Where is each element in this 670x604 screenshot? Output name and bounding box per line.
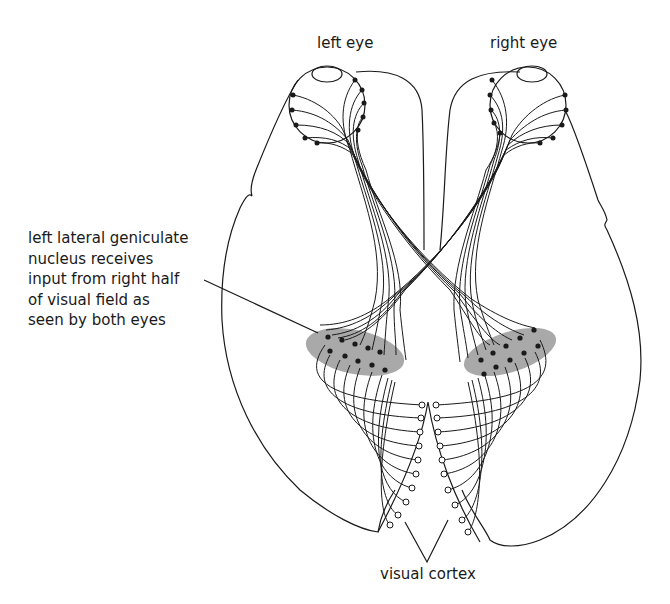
lgn-annotation-line: of visual field as <box>28 290 188 311</box>
left-eye-label: left eye <box>317 33 373 53</box>
left-hemisphere-outline <box>222 80 395 532</box>
lgn-annotation: left lateral geniculate nucleus receives… <box>28 228 188 331</box>
left-optic-fibers <box>290 78 536 361</box>
lgn-annotation-line: input from right half <box>28 269 188 290</box>
left-midline <box>356 71 424 250</box>
cortex-leader-lines <box>405 520 448 562</box>
lgn-annotation-line: seen by both eyes <box>28 310 188 331</box>
right-optic-fibers <box>320 78 569 363</box>
lgn-leader-line <box>204 280 318 333</box>
right-eye-label: right eye <box>490 33 557 53</box>
right-lgn-shading <box>458 318 562 386</box>
left-lgn-shading <box>302 320 409 384</box>
lgn-annotation-line: nucleus receives <box>28 249 188 270</box>
right-midline <box>440 72 520 250</box>
visual-cortex-label: visual cortex <box>380 564 476 584</box>
visual-pathway-diagram: left eye right eye left lateral genicula… <box>0 0 670 604</box>
lgn-annotation-line: left lateral geniculate <box>28 228 188 249</box>
